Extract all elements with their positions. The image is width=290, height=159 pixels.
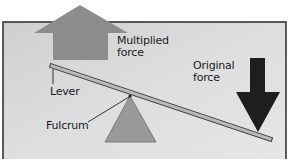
multiplied-force-label: Multiplied force (117, 35, 169, 59)
lever-label: Lever (50, 86, 80, 98)
fulcrum-label: Fulcrum (46, 120, 89, 132)
original-force-label: Original force (193, 60, 234, 84)
diagram-canvas (0, 0, 290, 159)
lever-diagram: Multiplied force Original force Lever Fu… (0, 0, 290, 159)
